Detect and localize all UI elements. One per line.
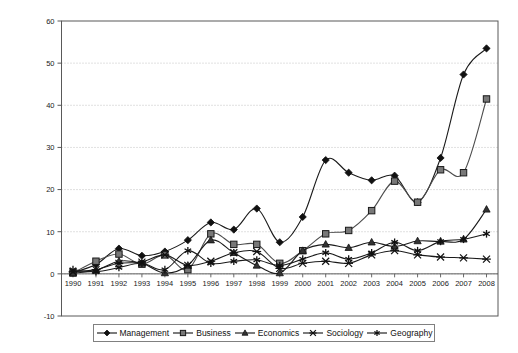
x-axis-tick-label: 1993 xyxy=(134,279,151,288)
square-marker-icon xyxy=(172,327,194,339)
data-point-marker xyxy=(437,167,443,173)
x-axis-tick-label: 2003 xyxy=(363,279,380,288)
x-axis-tick-label: 2007 xyxy=(455,279,472,288)
star-marker-icon xyxy=(366,327,388,339)
y-axis-tick-label: 50 xyxy=(46,59,54,68)
x-axis-tick-label: 2004 xyxy=(386,279,403,288)
cross-marker-icon xyxy=(302,327,324,339)
data-point-marker xyxy=(116,251,122,257)
x-axis-tick-label: 1990 xyxy=(65,279,82,288)
legend-item-label: Economics xyxy=(258,329,300,338)
data-point-marker xyxy=(368,207,374,213)
data-point-marker xyxy=(231,241,237,247)
data-point-marker xyxy=(207,219,214,226)
legend-item-label: Management xyxy=(120,329,170,338)
x-axis-tick-label: 1996 xyxy=(202,279,219,288)
data-point-marker xyxy=(368,177,375,184)
data-point-marker xyxy=(460,71,467,78)
x-axis-tick-label: 2001 xyxy=(317,279,334,288)
data-point-marker xyxy=(299,213,306,220)
x-axis-tick-label: 1992 xyxy=(111,279,128,288)
data-point-marker xyxy=(345,169,352,176)
x-axis-tick-label: 2002 xyxy=(340,279,357,288)
x-axis-tick-label: 1994 xyxy=(157,279,174,288)
y-axis-tick-label: 20 xyxy=(46,185,54,194)
legend-item-label: Business xyxy=(196,329,231,338)
data-point-marker xyxy=(276,239,283,246)
data-point-marker xyxy=(138,252,145,259)
x-axis-tick-label: 1999 xyxy=(271,279,288,288)
data-point-marker xyxy=(310,330,317,336)
data-point-marker xyxy=(437,154,444,161)
triangle-marker-icon xyxy=(234,327,256,339)
legend-item-business[interactable]: Business xyxy=(171,327,232,339)
x-axis-tick-label: 1998 xyxy=(248,279,265,288)
chart-plot-area: -100102030405060199019911992199319941995… xyxy=(0,0,518,353)
y-axis-tick-label: 60 xyxy=(46,17,54,26)
chart-legend: ManagementBusinessEconomicsSociologyGeog… xyxy=(93,324,435,342)
data-point-marker xyxy=(482,256,491,263)
data-point-marker xyxy=(459,254,468,261)
legend-item-management[interactable]: Management xyxy=(95,327,171,339)
data-point-marker xyxy=(322,231,328,237)
data-point-marker xyxy=(322,156,329,163)
data-point-marker xyxy=(460,170,466,176)
legend-item-geography[interactable]: Geography xyxy=(365,327,433,339)
x-axis-tick-label: 2006 xyxy=(432,279,449,288)
y-axis-tick-label: 30 xyxy=(46,143,54,152)
x-axis-tick-label: 2000 xyxy=(294,279,311,288)
data-point-marker xyxy=(254,241,260,247)
legend-item-economics[interactable]: Economics xyxy=(233,327,301,339)
series-line xyxy=(73,99,487,273)
legend-item-label: Sociology xyxy=(326,329,363,338)
data-point-marker xyxy=(483,230,490,238)
data-point-marker xyxy=(181,330,186,335)
data-point-marker xyxy=(414,199,420,205)
legend-item-label: Geography xyxy=(390,329,432,338)
y-axis-tick-label: 10 xyxy=(46,228,54,237)
series-business xyxy=(70,96,490,276)
data-point-marker xyxy=(436,254,445,261)
data-point-marker xyxy=(345,227,351,233)
y-axis-tick-label: 0 xyxy=(50,270,54,279)
data-point-marker xyxy=(368,238,375,245)
line-chart: -100102030405060199019911992199319941995… xyxy=(0,0,518,353)
y-axis-tick-label: -10 xyxy=(44,312,55,321)
legend-item-sociology[interactable]: Sociology xyxy=(301,327,364,339)
data-point-marker xyxy=(252,248,261,255)
data-point-marker xyxy=(391,178,397,184)
data-point-marker xyxy=(483,96,489,102)
x-axis-tick-label: 1995 xyxy=(180,279,197,288)
x-axis-tick-label: 1997 xyxy=(225,279,242,288)
data-point-marker xyxy=(93,258,99,264)
data-point-marker xyxy=(104,330,110,336)
y-axis-tick-label: 40 xyxy=(46,101,54,110)
x-axis-tick-label: 1991 xyxy=(88,279,105,288)
data-point-marker xyxy=(483,206,490,213)
x-axis-tick-label: 2008 xyxy=(478,279,495,288)
x-axis-tick-label: 2005 xyxy=(409,279,426,288)
data-point-marker xyxy=(230,226,237,233)
series-management xyxy=(69,45,490,276)
data-point-marker xyxy=(321,258,330,265)
diamond-marker-icon xyxy=(96,327,118,339)
data-point-marker xyxy=(322,241,329,248)
